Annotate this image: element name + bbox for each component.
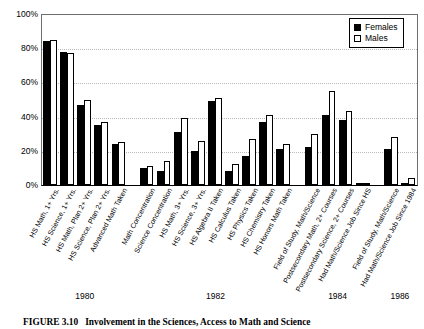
bar-females-1	[60, 52, 67, 185]
bar-males-16	[346, 111, 353, 185]
bar-males-1	[67, 53, 74, 185]
bar-females-2	[77, 105, 84, 185]
year-label-1984: 1984	[328, 292, 347, 301]
bar-males-17	[363, 183, 370, 185]
legend-item-males: Males	[354, 33, 398, 44]
bar-males-5	[147, 166, 154, 185]
bar-males-14	[311, 134, 318, 185]
bar-males-10	[232, 164, 239, 185]
bar-males-12	[266, 115, 273, 185]
bar-males-19	[408, 178, 415, 185]
bar-males-3	[101, 122, 108, 185]
y-tick-label-80: 80%	[2, 44, 38, 53]
legend-item-females: Females	[354, 22, 398, 33]
bar-females-17	[356, 183, 363, 185]
bar-males-11	[249, 139, 256, 185]
bar-males-0	[50, 40, 57, 185]
year-label-1986: 1986	[390, 292, 409, 301]
bar-males-4	[118, 142, 125, 185]
chart-legend: Females Males	[349, 18, 404, 48]
y-tick-label-100: 100%	[2, 10, 38, 19]
figure-caption: FIGURE 3.10Involvement in the Sciences, …	[23, 317, 413, 328]
open-white-square-icon	[354, 35, 361, 42]
bar-females-5	[140, 168, 147, 185]
bar-females-19	[401, 183, 408, 185]
bar-males-6	[164, 161, 171, 185]
bar-males-18	[391, 137, 398, 185]
y-tick-label-20: 20%	[2, 147, 38, 156]
bar-males-8	[198, 141, 205, 185]
bar-females-9	[208, 101, 215, 185]
legend-label-females: Females	[365, 23, 398, 32]
bar-females-4	[112, 144, 119, 185]
year-label-1980: 1980	[75, 292, 94, 301]
filled-black-square-icon	[354, 24, 361, 31]
year-group-labels: 1980198219841986	[42, 292, 417, 306]
figure-caption-text: Involvement in the Sciences, Access to M…	[85, 317, 310, 327]
bar-males-9	[215, 98, 222, 185]
bar-females-7	[174, 132, 181, 185]
bar-males-2	[84, 100, 91, 186]
bar-females-13	[276, 149, 283, 185]
year-label-1982: 1982	[206, 292, 225, 301]
bar-females-3	[94, 125, 101, 185]
bar-females-14	[305, 147, 312, 185]
bar-females-16	[339, 120, 346, 185]
bar-females-15	[322, 115, 329, 185]
figure-caption-number: FIGURE 3.10	[23, 317, 78, 327]
category-labels: HS Math, 1+ Yrs.HS Science, 1+ Yrs.HS Ma…	[42, 187, 417, 291]
y-tick-label-0: 0%	[2, 181, 38, 190]
bar-females-10	[225, 171, 232, 185]
bar-females-12	[259, 122, 266, 185]
bar-females-18	[384, 149, 391, 185]
bar-females-11	[242, 156, 249, 185]
bar-females-8	[191, 151, 198, 185]
bar-females-6	[157, 171, 164, 185]
legend-label-males: Males	[365, 34, 388, 43]
bar-females-0	[43, 41, 50, 185]
bar-males-13	[283, 144, 290, 185]
y-tick-label-40: 40%	[2, 113, 38, 122]
figure-container: 0%20%40%60%80%100% Females Males HS Math…	[0, 0, 424, 329]
bar-males-15	[329, 91, 336, 185]
bar-males-7	[181, 118, 188, 185]
y-tick-label-60: 60%	[2, 78, 38, 87]
